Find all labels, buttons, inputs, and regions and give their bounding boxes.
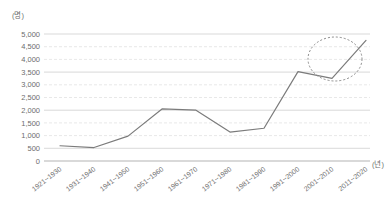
x-tick-label: 1971~1980	[201, 165, 233, 192]
x-axis-tick-labels: 1921~1930 1931~1940 1941~1950 1951~1960 …	[31, 165, 369, 192]
chart-canvas: (명) 5,000 4,500 4,000 3,500 3,000 2,500 …	[0, 0, 390, 209]
y-tick-label: 1,500	[21, 119, 40, 128]
x-tick-label: 2011~2020	[337, 165, 369, 192]
x-tick-label: 1941~1950	[99, 165, 131, 192]
x-axis-unit-label: (년)	[372, 159, 384, 169]
y-tick-label: 0	[36, 157, 40, 166]
y-axis-unit-label: (명)	[12, 10, 24, 20]
x-tick-label: 1931~1940	[65, 165, 97, 192]
y-tick-label: 500	[27, 144, 40, 153]
y-tick-label: 1,000	[21, 131, 40, 140]
gridlines	[44, 34, 370, 148]
y-axis-tick-labels: 5,000 4,500 4,000 3,500 3,000 2,500 2,00…	[21, 30, 40, 166]
x-tick-label: 1961~1970	[167, 165, 199, 192]
x-tick-label: 1921~1930	[31, 165, 63, 192]
y-tick-label: 4,500	[21, 42, 40, 51]
line-chart-container: (명) 5,000 4,500 4,000 3,500 3,000 2,500 …	[0, 0, 390, 209]
y-tick-label: 2,500	[21, 93, 40, 102]
x-tick-label: 1951~1960	[133, 165, 165, 192]
x-tick-label: 1981~1990	[235, 165, 267, 192]
y-tick-label: 4,000	[21, 55, 40, 64]
y-tick-label: 3,500	[21, 68, 40, 77]
y-tick-label: 2,000	[21, 106, 40, 115]
y-tick-label: 5,000	[21, 30, 40, 39]
y-tick-label: 3,000	[21, 80, 40, 89]
x-tick-label: 2001~2010	[303, 165, 335, 192]
data-series-line	[60, 40, 366, 147]
x-tick-label: 1991~2000	[269, 165, 301, 192]
